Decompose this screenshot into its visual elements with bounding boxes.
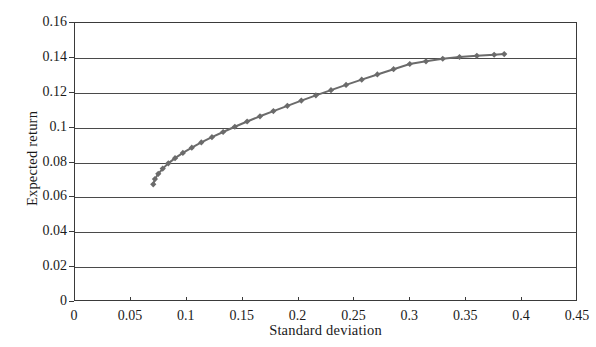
y-tick-label: 0 [21, 294, 67, 308]
y-tick-label: 0.1 [21, 120, 67, 134]
x-tick-mark [298, 297, 299, 301]
data-point-marker [456, 54, 462, 60]
x-tick-mark [186, 297, 187, 301]
data-point-marker [390, 66, 396, 72]
data-point-marker [359, 77, 365, 83]
y-tick-mark [69, 231, 74, 232]
x-tick-label: 0.25 [330, 309, 376, 323]
data-point-marker [474, 53, 480, 59]
data-point-marker [501, 51, 507, 57]
data-point-marker [343, 82, 349, 88]
x-tick-label: 0.1 [163, 309, 209, 323]
x-tick-label: 0.35 [442, 309, 488, 323]
y-tick-label: 0.06 [21, 189, 67, 203]
x-axis-title: Standard deviation [74, 322, 577, 339]
data-point-marker [220, 129, 226, 135]
y-tick-mark [69, 92, 74, 93]
y-tick-mark [69, 196, 74, 197]
y-tick-mark [69, 301, 74, 302]
data-point-marker [150, 181, 156, 187]
plot-area [74, 22, 577, 301]
x-tick-mark [353, 297, 354, 301]
data-point-marker [423, 58, 429, 64]
x-tick-mark [409, 297, 410, 301]
y-tick-mark [69, 266, 74, 267]
data-point-marker [284, 103, 290, 109]
x-tick-mark [521, 297, 522, 301]
x-tick-label: 0.3 [386, 309, 432, 323]
data-point-marker [244, 118, 250, 124]
y-tick-label: 0.14 [21, 50, 67, 64]
x-tick-label: 0.05 [107, 309, 153, 323]
series-efficient-frontier [75, 23, 578, 302]
series-line [153, 54, 504, 184]
efficient-frontier-chart: Expected return 00.020.040.060.080.10.12… [0, 0, 596, 347]
y-tick-label: 0.04 [21, 224, 67, 238]
data-point-marker [232, 124, 238, 130]
y-tick-label: 0.08 [21, 155, 67, 169]
y-tick-label: 0.02 [21, 259, 67, 273]
data-point-marker [298, 97, 304, 103]
data-point-marker [374, 71, 380, 77]
data-point-marker [491, 52, 497, 58]
data-point-marker [328, 87, 334, 93]
y-tick-mark [69, 22, 74, 23]
x-tick-mark [465, 297, 466, 301]
data-point-marker [313, 92, 319, 98]
data-point-marker [257, 113, 263, 119]
x-tick-mark [242, 297, 243, 301]
x-tick-mark [130, 297, 131, 301]
data-point-marker [270, 108, 276, 114]
y-tick-mark [69, 162, 74, 163]
y-tick-mark [69, 127, 74, 128]
x-tick-label: 0.2 [275, 309, 321, 323]
data-point-marker [407, 61, 413, 67]
y-tick-label: 0.16 [21, 15, 67, 29]
y-tick-label: 0.12 [21, 85, 67, 99]
x-tick-label: 0.4 [498, 309, 544, 323]
x-tick-label: 0.45 [554, 309, 596, 323]
data-point-marker [440, 56, 446, 62]
x-tick-label: 0.15 [219, 309, 265, 323]
y-tick-mark [69, 57, 74, 58]
x-tick-label: 0 [51, 309, 97, 323]
